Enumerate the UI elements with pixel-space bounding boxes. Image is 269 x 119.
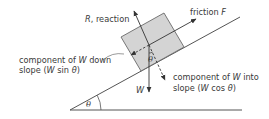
down-slope-label-line2: slope (W sin θ) <box>19 65 80 75</box>
into-slope-label-line1: component of W into <box>173 72 259 82</box>
down-slope-label-line1: component of W down <box>19 55 111 65</box>
slope-angle-label: θ <box>86 99 91 109</box>
slope-angle-arc <box>97 95 101 110</box>
reaction-label: R, reaction <box>85 14 129 24</box>
weight-label: W <box>136 85 145 95</box>
into-slope-label-line2: slope (W cos θ) <box>173 83 236 93</box>
block-angle-label: θ <box>148 54 153 64</box>
inclined-plane-diagram: θ θ R, reaction friction F W component o… <box>0 0 269 119</box>
friction-label: friction F <box>190 7 226 17</box>
